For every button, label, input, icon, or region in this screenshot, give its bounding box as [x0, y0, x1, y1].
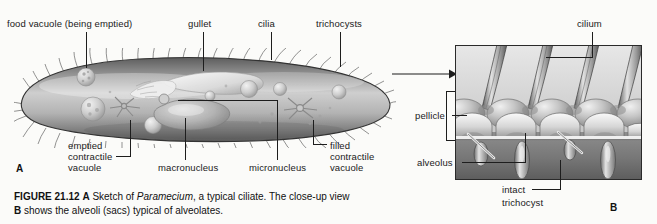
leader-food-vacuole: [86, 32, 87, 68]
food-vacuole: [332, 85, 346, 99]
leader-gullet: [203, 32, 204, 71]
pellicle-closeup-svg: [456, 46, 641, 179]
food-vacuole-emptying: [77, 68, 95, 86]
panel-b-closeup-inset: [455, 45, 640, 178]
label-cilium: cilium: [577, 18, 602, 30]
leader-intact-trichocyst-vertical: [560, 160, 561, 190]
inset-frame: [455, 45, 642, 180]
leader-alveolus-horizontal: [462, 162, 525, 163]
leader-trichocysts: [340, 32, 341, 67]
leader-cilia: [271, 32, 272, 60]
label-filled-contractile-vacuole-line2: contractile: [330, 151, 374, 163]
caption-figure-number: FIGURE 21.12: [14, 191, 80, 202]
leader-filled-cv-vertical: [313, 120, 314, 145]
label-emptied-contractile-vacuole-line2: contractile: [68, 151, 112, 163]
label-macronucleus: macronucleus: [158, 162, 218, 174]
caption-line-two: shows the alveoli (sacs) typical of alve…: [21, 205, 223, 216]
leader-filled-cv-horizontal: [313, 144, 327, 145]
leader-macronucleus: [185, 118, 186, 160]
micronucleus-shape: [159, 94, 169, 104]
leader-emptied-cv-vertical: [130, 120, 131, 157]
label-filled-contractile-vacuole-line1: filled: [330, 140, 350, 152]
label-cilia: cilia: [258, 18, 275, 30]
alveoli-row: [456, 113, 641, 140]
leader-cilium-horizontal: [546, 57, 593, 58]
label-intact-trichocyst-line2: trichocyst: [502, 197, 543, 209]
label-filled-contractile-vacuole-line3: vacuole: [330, 162, 363, 174]
food-vacuole: [81, 97, 105, 121]
label-gullet: gullet: [188, 18, 211, 30]
pellicle-bracket: [446, 91, 455, 141]
magnification-arrow: [392, 66, 458, 82]
caption-text-pre: Sketch of: [90, 191, 137, 202]
panel-a-paramecium-sketch: food vacuole (being emptied) gullet cili…: [0, 0, 420, 180]
panel-b-marker: B: [610, 202, 617, 213]
label-micronucleus: micronucleus: [249, 162, 306, 174]
paramecium-illustration: [14, 48, 396, 148]
figure-caption: FIGURE 21.12 A Sketch of Paramecium, a t…: [14, 190, 484, 217]
caption-marker-a: A: [82, 191, 89, 202]
label-alveolus: alveolus: [417, 157, 453, 169]
leader-alveolus-vertical: [525, 133, 526, 163]
caption-species-name: Paramecium: [137, 191, 193, 202]
leader-micronucleus-horizontal: [178, 100, 277, 101]
leader-micronucleus: [277, 100, 278, 160]
figure-container: food vacuole (being emptied) gullet cili…: [0, 0, 657, 224]
label-trichocysts: trichocysts: [316, 18, 362, 30]
label-pellicle: pellicle: [415, 110, 445, 122]
paramecium-svg: [14, 48, 396, 148]
leader-cilium-vertical: [592, 32, 593, 57]
label-emptied-contractile-vacuole-line1: emptied: [68, 140, 103, 152]
label-food-vacuole: food vacuole (being emptied): [7, 18, 132, 30]
label-emptied-contractile-vacuole-line3: vacuole: [68, 162, 101, 174]
label-intact-trichocyst-line1: intact: [502, 184, 525, 196]
food-vacuole: [274, 83, 287, 96]
leader-emptied-cv-horizontal: [116, 156, 130, 157]
caption-text-post: , a typical ciliate. The close-up view: [193, 191, 350, 202]
food-vacuole: [241, 81, 258, 98]
leader-intact-trichocyst-horizontal: [532, 189, 560, 190]
panel-a-marker: A: [16, 163, 23, 174]
